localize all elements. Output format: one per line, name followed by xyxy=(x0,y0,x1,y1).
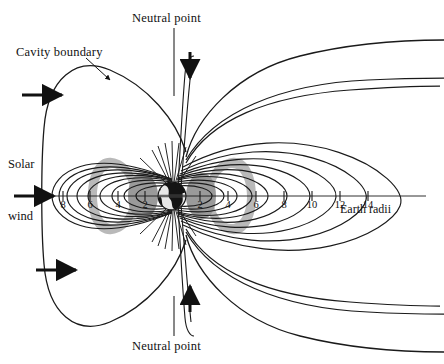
axis-tick-label: 10 xyxy=(307,200,318,211)
axis-tick-label: 8 xyxy=(60,200,65,211)
axis-tick-label: 6 xyxy=(253,200,258,211)
earth-globe xyxy=(157,182,188,213)
axis-tick-label: 4 xyxy=(225,200,230,211)
neutral-point-top-label: Neutral point xyxy=(132,12,201,25)
axis-tick-label: 2 xyxy=(142,200,147,211)
cavity-boundary-label: Cavity boundary xyxy=(16,46,103,59)
axis-tick-label: 6 xyxy=(87,200,92,211)
wind-label: wind xyxy=(8,210,33,223)
axis-tick-label: 4 xyxy=(115,200,120,211)
axis-tick-label: 8 xyxy=(281,200,286,211)
axis-tick-label: 12 xyxy=(335,200,346,211)
axis-tick-label: 14 xyxy=(363,200,374,211)
neutral-point-bottom-label: Neutral point xyxy=(132,340,201,353)
solar-label: Solar xyxy=(8,158,34,171)
axis-tick-label: 2 xyxy=(197,200,202,211)
magnetosphere-figure: Cavity boundary Neutral point Neutral po… xyxy=(0,0,444,364)
